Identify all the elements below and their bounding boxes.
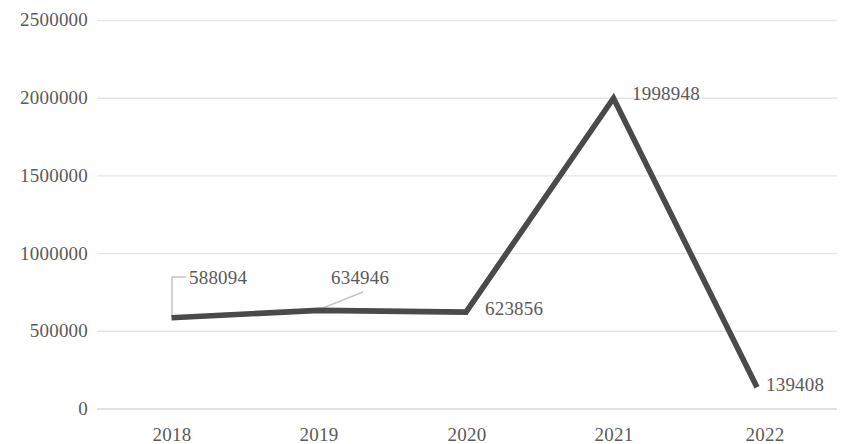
gridlines: [97, 21, 837, 410]
y-axis-tick-1500000: 1500000: [20, 165, 88, 187]
data-series-line: [172, 98, 758, 387]
y-axis-tick-2000000: 2000000: [20, 87, 88, 109]
line-chart: 2500000 2000000 1500000 1000000 500000 0…: [0, 0, 843, 444]
y-axis-tick-500000: 500000: [30, 320, 88, 342]
x-axis-tick-2019: 2019: [300, 424, 339, 444]
data-label-2021: 1998948: [632, 83, 700, 105]
leader-line-634946: [318, 292, 363, 310]
y-axis-tick-0: 0: [78, 398, 88, 420]
x-axis-tick-2022: 2022: [746, 424, 785, 444]
data-label-2018: 588094: [189, 267, 247, 289]
x-axis-tick-2020: 2020: [448, 424, 487, 444]
leader-line-588094: [172, 277, 186, 317]
x-axis-tick-2021: 2021: [595, 424, 634, 444]
data-label-2019: 634946: [331, 267, 389, 289]
data-label-2022: 139408: [766, 374, 824, 396]
chart-plot-area: [0, 0, 843, 444]
y-axis-tick-2500000: 2500000: [20, 9, 88, 31]
data-label-2020: 623856: [485, 298, 543, 320]
x-axis-tick-2018: 2018: [153, 424, 192, 444]
y-axis-tick-1000000: 1000000: [20, 243, 88, 265]
